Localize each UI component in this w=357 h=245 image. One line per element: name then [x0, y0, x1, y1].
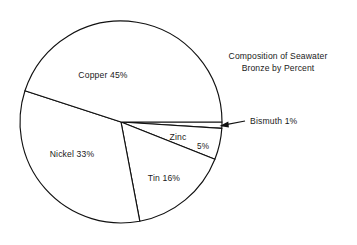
label-zinc-name: Zinc	[170, 132, 187, 142]
label-bismuth: Bismuth 1%	[250, 116, 298, 126]
pie-chart-figure: Copper 45% Nickel 33% Tin 16% Zinc 5% Bi…	[0, 0, 357, 245]
label-nickel: Nickel 33%	[50, 149, 95, 159]
label-copper: Copper 45%	[78, 70, 127, 80]
chart-title-line-2: Bronze by Percent	[242, 63, 315, 73]
pie-chart-svg: Copper 45% Nickel 33% Tin 16% Zinc 5% Bi…	[0, 0, 357, 245]
label-tin: Tin 16%	[148, 173, 180, 183]
chart-title-line-1: Composition of Seawater	[229, 51, 328, 61]
bismuth-leader-line	[226, 121, 245, 125]
label-zinc-value: 5%	[197, 142, 209, 151]
